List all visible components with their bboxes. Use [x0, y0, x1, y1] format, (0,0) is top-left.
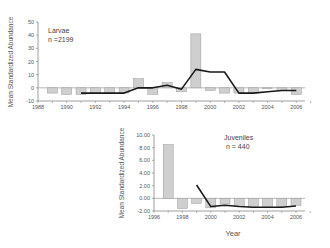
- y-tick-label: 0: [31, 85, 34, 91]
- bar: [263, 88, 273, 89]
- x-tick-label: 2006: [290, 104, 302, 110]
- y-tick-label: 4.00: [139, 170, 150, 176]
- x-tick-label: 1996: [147, 104, 159, 110]
- x-tick-label: 2002: [233, 104, 245, 110]
- sample-size-label: n =2199: [48, 36, 74, 43]
- x-tick-label: 2004: [261, 104, 273, 110]
- bar: [234, 198, 244, 206]
- bar: [205, 88, 215, 91]
- x-tick-label: 1998: [175, 104, 187, 110]
- bar: [192, 198, 202, 203]
- x-tick-label: 2004: [261, 214, 273, 220]
- y-tick-label: 0.00: [139, 195, 150, 201]
- x-tick-label: 1990: [61, 104, 73, 110]
- y-tick-label: 40: [28, 32, 34, 38]
- bar: [177, 198, 187, 208]
- panel-label: Larvae: [48, 27, 70, 34]
- y-tick-label: 30: [28, 45, 34, 51]
- x-tick-label: 1992: [89, 104, 101, 110]
- bar: [47, 88, 57, 93]
- x-tick-label: 2000: [204, 104, 216, 110]
- bar: [163, 145, 173, 199]
- bar: [133, 79, 143, 88]
- y-tick-label: 20: [28, 59, 34, 65]
- x-tick-label: 2002: [233, 214, 245, 220]
- bar: [191, 34, 201, 88]
- bar: [277, 198, 287, 206]
- bar: [220, 88, 230, 93]
- juveniles-chart: 10.008.006.004.002.000.00-2.001996199820…: [118, 127, 310, 238]
- x-tick-label: 1994: [118, 104, 130, 110]
- larvae-chart: 50403020100-1019881990199219941996199820…: [7, 16, 311, 110]
- y-tick-label: 6.00: [139, 157, 150, 163]
- bar: [291, 198, 301, 205]
- y-tick-label: 10: [28, 72, 34, 78]
- bar: [148, 88, 158, 95]
- bar: [220, 198, 230, 204]
- x-tick-label: 2006: [290, 214, 302, 220]
- x-tick-label: 2000: [205, 214, 217, 220]
- x-axis-title: Year: [225, 229, 241, 238]
- y-tick-label: 50: [28, 19, 34, 25]
- bar: [248, 198, 258, 207]
- x-tick-label: 1988: [32, 104, 44, 110]
- x-tick-label: 1996: [148, 214, 160, 220]
- y-tick-label: 2.00: [139, 183, 150, 189]
- x-tick-label: 1998: [176, 214, 188, 220]
- panel-label: Juveniles: [224, 134, 254, 141]
- y-axis-title: Mean Standardized Abundance: [118, 127, 125, 218]
- y-tick-label: 10.00: [136, 132, 150, 138]
- sample-size-label: n = 440: [226, 143, 250, 150]
- chart-canvas: 50403020100-1019881990199219941996199820…: [0, 0, 330, 248]
- bar: [62, 88, 72, 95]
- bar: [263, 198, 273, 207]
- y-tick-label: 8.00: [139, 145, 150, 151]
- y-axis-title: Mean Standardized Abundance: [7, 16, 14, 107]
